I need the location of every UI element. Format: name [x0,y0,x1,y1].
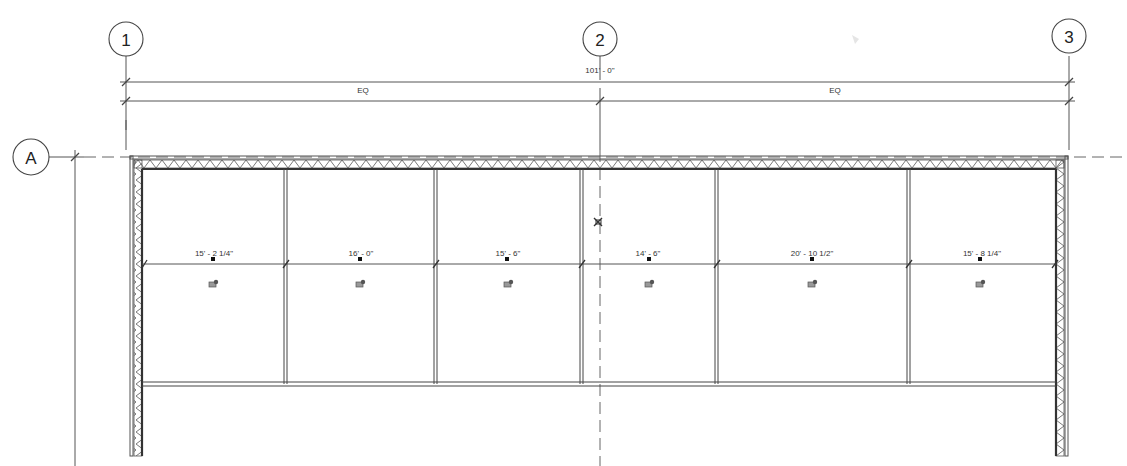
room-tag-icon[interactable] [209,280,218,287]
grid-label-1: 1 [121,31,130,50]
room-5[interactable]: 20' - 10 1/2" [791,249,834,287]
cursor-ghost-icon [852,35,859,44]
dimension-grip-icon[interactable] [505,257,509,261]
eq-label-left: EQ [357,86,369,95]
room-1-width: 15' - 2 1/4" [195,249,233,258]
room-tag-icon[interactable] [504,280,513,287]
dimension-grip-icon[interactable] [358,257,362,261]
dimension-grip-icon[interactable] [211,257,215,261]
room-tag-icon[interactable] [356,280,365,287]
room-3[interactable]: 15' - 6" [496,249,521,287]
overall-dimension[interactable]: 101' - 0" [120,66,1075,86]
grid-label-a: A [25,149,37,168]
exterior-wall[interactable] [130,156,1068,456]
room-4[interactable]: 14' - 6" [636,249,661,287]
room-6-width: 15' - 8 1/4" [963,249,1001,258]
dimension-grip-icon[interactable] [978,257,982,261]
grid-bubble-2[interactable]: 2 [583,22,617,56]
eq-label-right: EQ [829,86,841,95]
room-3-width: 15' - 6" [496,249,521,258]
grid-label-3: 3 [1064,28,1073,47]
room-tag-icon[interactable] [808,280,817,287]
room-1[interactable]: 15' - 2 1/4" [195,249,233,287]
dimension-grip-icon[interactable] [810,257,814,261]
room-tag-icon[interactable] [976,280,985,287]
interior-partitions[interactable] [142,169,1056,386]
grid-bubble-3[interactable]: 3 [1052,19,1086,53]
room-4-width: 14' - 6" [636,249,661,258]
room-6[interactable]: 15' - 8 1/4" [963,249,1001,287]
room-2[interactable]: 16' - 0" [349,249,374,287]
overall-dimension-label: 101' - 0" [585,66,614,75]
dimension-grip-icon[interactable] [647,257,651,261]
grid-bubble-1[interactable]: 1 [109,22,143,56]
pin-icon[interactable] [594,218,602,226]
room-2-width: 16' - 0" [349,249,374,258]
floor-plan-canvas[interactable]: 1 2 3 A 101' - 0" EQ EQ [0,0,1127,466]
room-tag-icon[interactable] [645,280,654,287]
room-5-width: 20' - 10 1/2" [791,249,834,258]
grid-bubble-a[interactable]: A [13,139,49,175]
eq-dimension[interactable]: EQ EQ [120,86,1075,105]
grid-label-2: 2 [595,31,604,50]
